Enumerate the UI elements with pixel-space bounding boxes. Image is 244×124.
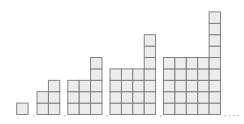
grid-cell [91, 80, 102, 91]
grid-cell [198, 69, 209, 80]
grid-cell [121, 103, 132, 114]
grid-cell [164, 92, 175, 103]
grid-cell [209, 103, 220, 114]
grid-cell [144, 35, 155, 46]
grid-cell [164, 80, 175, 91]
grid-cell [198, 58, 209, 69]
pattern-diagram: ,,,, , . . . [0, 0, 244, 124]
grid-cell [68, 80, 79, 91]
figures-group [17, 12, 221, 115]
grid-cell [186, 69, 197, 80]
grid-cell [175, 58, 186, 69]
grid-cell [186, 103, 197, 114]
grid-cell [121, 92, 132, 103]
comma-separator: , [64, 110, 66, 117]
grid-cell [79, 80, 90, 91]
grid-cell [110, 103, 121, 114]
grid-cell [175, 69, 186, 80]
grid-cell [209, 23, 220, 34]
grid-cell [17, 103, 28, 114]
grid-cell [209, 46, 220, 57]
figure-3 [68, 58, 102, 115]
grid-cell [209, 69, 220, 80]
grid-cell [209, 92, 220, 103]
grid-cell [48, 92, 59, 103]
grid-cell [164, 58, 175, 69]
figure-4 [110, 35, 156, 115]
grid-cell [209, 35, 220, 46]
grid-cell [186, 80, 197, 91]
grid-cell [164, 69, 175, 80]
grid-cell [110, 69, 121, 80]
grid-cell [133, 69, 144, 80]
comma-separator: , [106, 110, 108, 117]
grid-cell [79, 92, 90, 103]
grid-cell [209, 12, 220, 23]
grid-cell [91, 58, 102, 69]
grid-cell [133, 80, 144, 91]
grid-cell [121, 69, 132, 80]
grid-cell [121, 80, 132, 91]
grid-cell [144, 80, 155, 91]
continuation-ellipsis: , . . . [224, 110, 240, 118]
grid-cell [198, 103, 209, 114]
grid-cell [164, 103, 175, 114]
grid-cell [209, 58, 220, 69]
grid-cell [144, 92, 155, 103]
grid-cell [144, 58, 155, 69]
grid-cell [37, 103, 48, 114]
grid-cell [68, 103, 79, 114]
grid-cell [175, 92, 186, 103]
grid-cell [68, 92, 79, 103]
grid-cell [110, 92, 121, 103]
grid-cell [186, 58, 197, 69]
grid-cell [133, 92, 144, 103]
figure-5 [164, 12, 221, 115]
grid-cell [110, 80, 121, 91]
grid-cell [37, 92, 48, 103]
figure-1 [17, 103, 28, 114]
grid-cell [79, 103, 90, 114]
grid-cell [198, 92, 209, 103]
grid-cell [91, 92, 102, 103]
grid-cell [144, 103, 155, 114]
grid-cell [209, 80, 220, 91]
grid-cell [175, 80, 186, 91]
figure-2 [37, 80, 60, 114]
grid-cell [144, 69, 155, 80]
grid-cell [175, 103, 186, 114]
grid-cell [186, 92, 197, 103]
comma-separator: , [160, 110, 162, 117]
grid-cell [91, 103, 102, 114]
grid-cell [91, 69, 102, 80]
grid-cell [48, 103, 59, 114]
grid-cell [48, 80, 59, 91]
grid-cell [133, 103, 144, 114]
grid-cell [144, 46, 155, 57]
comma-separator: , [33, 110, 35, 117]
grid-cell [198, 80, 209, 91]
